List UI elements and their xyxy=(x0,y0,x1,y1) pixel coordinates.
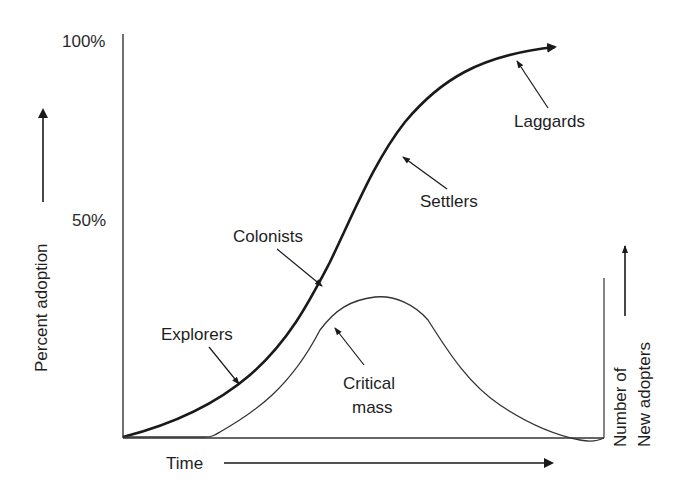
y-axis-title: Percent adoption xyxy=(33,243,50,372)
label-laggards: Laggards xyxy=(514,113,585,130)
label-explorers: Explorers xyxy=(161,326,233,343)
critical-mass-pointer-icon xyxy=(335,328,364,365)
laggards-pointer-icon xyxy=(517,61,548,108)
label-colonists: Colonists xyxy=(233,228,303,245)
y-tick-50: 50% xyxy=(72,212,106,229)
y-tick-100: 100% xyxy=(62,33,105,50)
right-axis-title-line1: Number of xyxy=(612,368,629,447)
adoption-s-curve xyxy=(123,47,555,437)
diffusion-diagram xyxy=(0,0,679,496)
right-axis-title-line2: New adopters xyxy=(636,342,653,447)
new-adopters-bell-curve xyxy=(123,297,604,441)
colonists-pointer-icon xyxy=(277,249,322,286)
label-critical-mass-line2: mass xyxy=(352,399,393,416)
label-settlers: Settlers xyxy=(420,193,478,210)
explorers-pointer-icon xyxy=(209,347,239,384)
label-critical-mass-line1: Critical xyxy=(343,375,395,392)
settlers-pointer-icon xyxy=(403,157,447,189)
x-axis-title: Time xyxy=(166,455,203,472)
